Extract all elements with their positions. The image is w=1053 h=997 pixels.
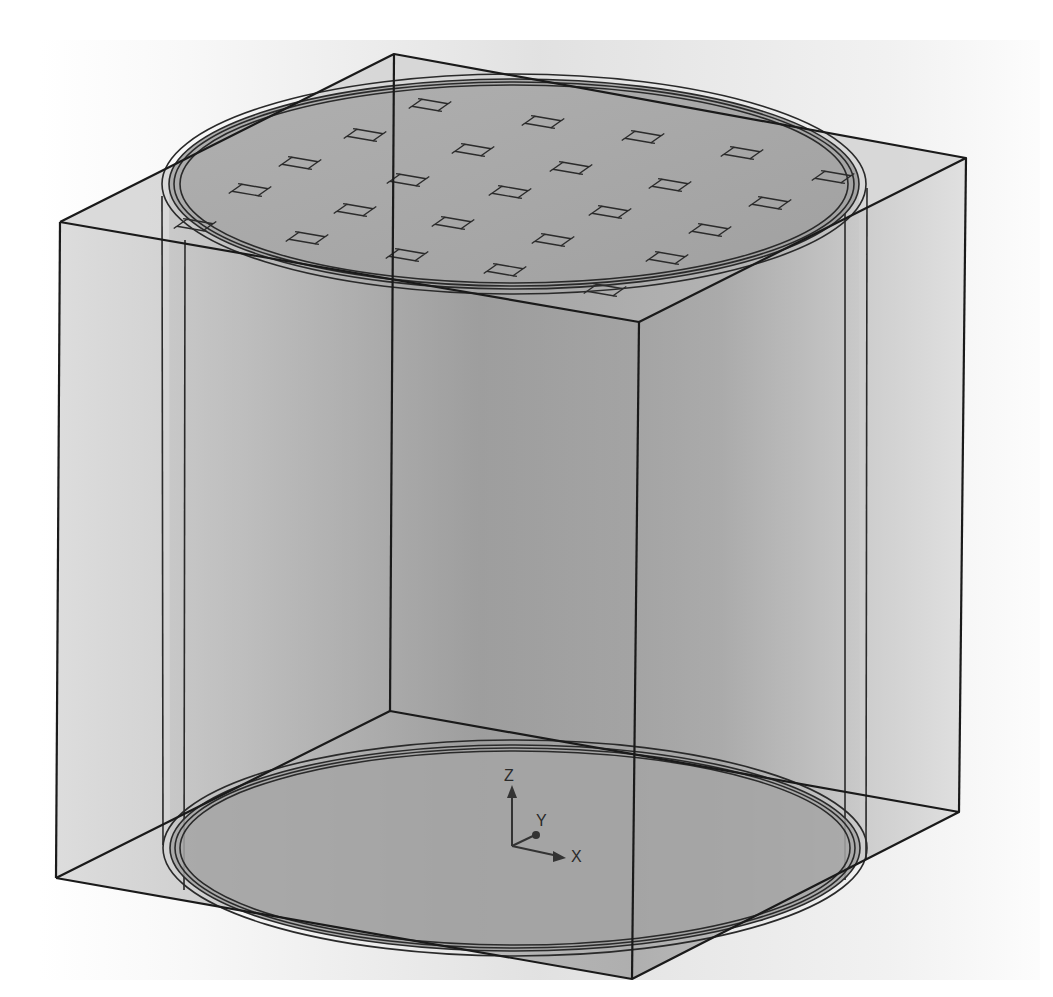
patch-corner-tick	[308, 169, 312, 170]
patch-corner-tick	[678, 191, 682, 192]
patch-corner-tick	[518, 198, 522, 199]
patch-corner-tick	[416, 186, 420, 187]
patch-corner-tick	[415, 261, 419, 262]
patch-corner-tick	[441, 217, 445, 218]
patch-corner-tick	[655, 252, 659, 253]
cylinder-silhouette-left-inner	[184, 240, 185, 890]
patch-corner-tick	[396, 174, 400, 175]
patch-corner-tick	[698, 224, 702, 225]
patch-corner-tick	[718, 236, 722, 237]
patch-corner-tick	[461, 144, 465, 145]
patch-corner-tick	[593, 284, 597, 285]
patch-corner-tick	[238, 184, 242, 185]
patch-corner-tick	[295, 232, 299, 233]
patch-corner-tick	[598, 206, 602, 207]
y-axis-label: Y	[536, 812, 547, 829]
patch-corner-tick	[438, 111, 442, 112]
patch-corner-tick	[613, 296, 617, 297]
patch-corner-tick	[618, 218, 622, 219]
cylinder-silhouette-right-outer	[866, 188, 867, 860]
patch-corner-tick	[758, 197, 762, 198]
patch-corner-tick	[315, 244, 319, 245]
patch-corner-tick	[541, 234, 545, 235]
patch-corner-tick	[513, 276, 517, 277]
patch-corner-tick	[373, 141, 377, 142]
patch-corner-tick	[493, 264, 497, 265]
x-axis-label: X	[571, 848, 582, 865]
patch-corner-tick	[841, 183, 845, 184]
patch-corner-tick	[531, 116, 535, 117]
patch-corner-tick	[288, 157, 292, 158]
patch-corner-tick	[481, 156, 485, 157]
patch-corner-tick	[675, 264, 679, 265]
patch-corner-tick	[551, 128, 555, 129]
patch-corner-tick	[395, 249, 399, 250]
patch-corner-tick	[418, 99, 422, 100]
patch-corner-tick	[631, 131, 635, 132]
3d-viewport[interactable]: Z Y X	[0, 0, 1053, 997]
patch-corner-tick	[353, 129, 357, 130]
patch-corner-tick	[343, 204, 347, 205]
patch-corner-tick	[821, 171, 825, 172]
cylinder-silhouette-left-outer	[162, 196, 163, 845]
patch-corner-tick	[559, 162, 563, 163]
z-axis-label: Z	[504, 767, 514, 784]
patch-corner-tick	[651, 143, 655, 144]
patch-corner-tick	[658, 179, 662, 180]
patch-corner-tick	[461, 229, 465, 230]
patch-corner-tick	[778, 209, 782, 210]
patch-corner-tick	[183, 219, 187, 220]
patch-corner-tick	[363, 216, 367, 217]
y-axis-arrowhead-icon	[532, 831, 540, 839]
patch-corner-tick	[258, 196, 262, 197]
patch-corner-tick	[579, 174, 583, 175]
patch-corner-tick	[750, 159, 754, 160]
patch-corner-tick	[498, 186, 502, 187]
patch-corner-tick	[203, 231, 207, 232]
patch-corner-tick	[730, 147, 734, 148]
patch-corner-tick	[561, 246, 565, 247]
